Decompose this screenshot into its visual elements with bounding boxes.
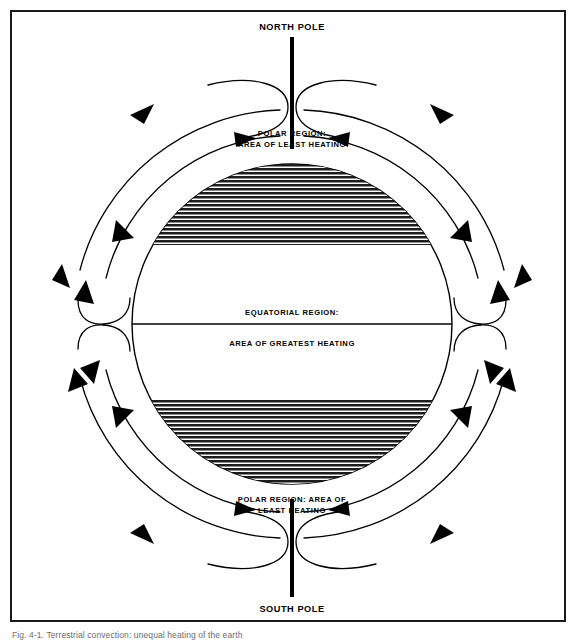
equator-curl-right-upper-b	[454, 298, 480, 324]
south-pole-label: SOUTH POLE	[259, 604, 324, 614]
equatorial-region-label-line2: AREA OF GREATEST HEATING	[229, 339, 355, 348]
arrow-midlat-right-up	[490, 280, 510, 304]
equator-curl-left-upper	[78, 300, 104, 324]
equator-curl-right-upper	[480, 300, 506, 324]
arrow-south-outer-right-down	[430, 524, 454, 544]
arrow-south-inner-right-up	[450, 406, 472, 428]
earth-circulation-diagram: NORTH POLE POLAR REGION: AREA OF LEAST H…	[12, 12, 564, 620]
south-curl-left	[208, 511, 288, 568]
south-polar-region-label-line1: POLAR REGION: AREA OF	[238, 495, 346, 504]
arrow-midlat-left-up	[52, 264, 70, 288]
figure-page: NORTH POLE POLAR REGION: AREA OF LEAST H…	[0, 0, 580, 644]
equator-curl-left-lower	[78, 325, 104, 349]
south-curl-right	[296, 511, 376, 568]
south-polar-region-label-line2: LEAST HEATING	[258, 506, 326, 515]
arrow-south-inner-left-up	[112, 406, 134, 428]
equatorial-region-label-line1: EQUATORIAL REGION:	[245, 308, 339, 317]
equator-curl-right-lower	[480, 325, 506, 349]
arrow-north-outer-left-up	[130, 104, 154, 124]
north-polar-region-label-line2: AREA OF LEAST HEATING	[238, 140, 346, 149]
arrow-midlat-left-down	[74, 280, 94, 304]
arrow-north-inner-left-down	[112, 220, 134, 242]
arrow-south-outer-left-down	[130, 524, 154, 544]
equator-curl-left-upper-b	[104, 298, 130, 324]
arrow-north-inner-right-down	[450, 220, 472, 242]
north-polar-region-label-line1: POLAR REGION:	[258, 129, 326, 138]
arrow-north-outer-right-up	[430, 104, 454, 124]
south-polar-hatch	[122, 400, 462, 498]
equator-curl-left-lower-b	[104, 325, 130, 351]
figure-caption: Fig. 4-1. Terrestrial convection: unequa…	[12, 628, 552, 642]
north-pole-label: NORTH POLE	[259, 22, 325, 32]
equator-curl-right-lower-b	[454, 325, 480, 351]
arrow-midlat-right-down	[514, 264, 532, 288]
figure-frame: NORTH POLE POLAR REGION: AREA OF LEAST H…	[10, 10, 566, 622]
